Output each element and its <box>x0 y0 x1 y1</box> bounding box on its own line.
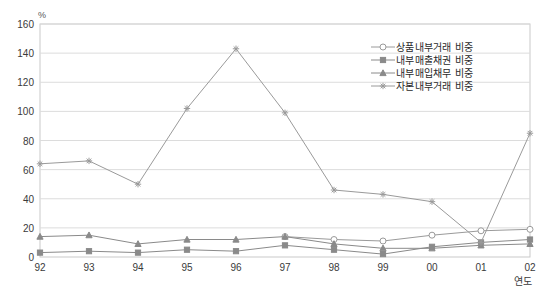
data-point <box>380 251 385 256</box>
data-point <box>527 226 533 232</box>
data-point <box>282 243 287 248</box>
data-point <box>86 249 91 254</box>
x-axis-tick: 02 <box>524 262 535 273</box>
legend-marker-circle-open-icon <box>370 41 396 53</box>
legend-item: 자본내부거래 비중 <box>370 79 473 92</box>
x-axis-tick: 94 <box>132 262 143 273</box>
x-axis-tick: 95 <box>181 262 192 273</box>
chart-legend: 상품내부거래 비중내부매출채권 비중내부매입채무 비중자본내부거래 비중 <box>366 38 477 94</box>
y-axis-tick: 160 <box>0 19 34 30</box>
chart-container: % 020406080100120140160 9293949596979899… <box>0 0 540 290</box>
y-axis-unit-label: % <box>38 10 46 20</box>
x-axis-tick: 00 <box>426 262 437 273</box>
x-axis-tick: 96 <box>230 262 241 273</box>
y-axis-tick: 20 <box>0 222 34 233</box>
y-axis-tick-labels: 020406080100120140160 <box>0 0 34 290</box>
x-axis-title: 연도 <box>514 273 532 288</box>
y-axis-tick: 120 <box>0 77 34 88</box>
x-axis-tick: 93 <box>83 262 94 273</box>
legend-marker-star-icon <box>370 80 396 92</box>
data-point <box>135 250 140 255</box>
data-point <box>380 238 386 244</box>
legend-label: 자본내부거래 비중 <box>396 78 473 93</box>
data-point <box>380 57 385 62</box>
y-axis-tick: 60 <box>0 164 34 175</box>
data-point <box>331 247 336 252</box>
x-axis-tick: 98 <box>328 262 339 273</box>
y-axis-tick: 40 <box>0 193 34 204</box>
y-axis-tick: 80 <box>0 135 34 146</box>
x-axis-tick: 97 <box>279 262 290 273</box>
legend-marker-square-filled-icon <box>370 54 396 66</box>
y-axis-tick: 100 <box>0 106 34 117</box>
x-axis-tick: 99 <box>377 262 388 273</box>
legend-marker-triangle-filled-icon <box>370 67 396 79</box>
data-point <box>478 228 484 234</box>
data-point <box>233 249 238 254</box>
data-point <box>184 247 189 252</box>
y-axis-tick: 0 <box>0 252 34 263</box>
x-axis-tick: 01 <box>475 262 486 273</box>
y-axis-tick: 140 <box>0 48 34 59</box>
data-point <box>429 232 435 238</box>
data-point <box>380 44 386 50</box>
data-point <box>37 250 42 255</box>
x-axis-tick: 92 <box>34 262 45 273</box>
